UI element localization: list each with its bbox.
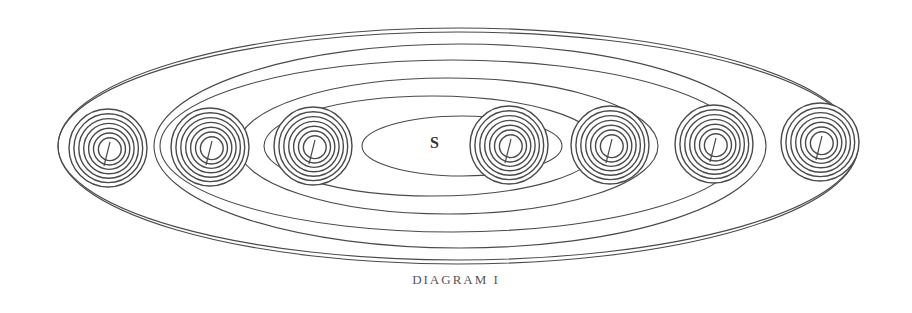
planet-spiral-3 bbox=[274, 107, 352, 185]
sun-label: S bbox=[430, 134, 439, 152]
planet-spiral-2 bbox=[171, 108, 249, 186]
solar-system-diagram bbox=[0, 0, 912, 313]
diagram-caption: DIAGRAM I bbox=[0, 272, 912, 288]
planet-spiral-5 bbox=[571, 106, 649, 184]
planet-spiral-1 bbox=[69, 109, 147, 187]
planet-spiral-6 bbox=[675, 105, 753, 183]
planet-spiral-4 bbox=[470, 106, 548, 184]
planet-spiral-7 bbox=[781, 103, 859, 181]
